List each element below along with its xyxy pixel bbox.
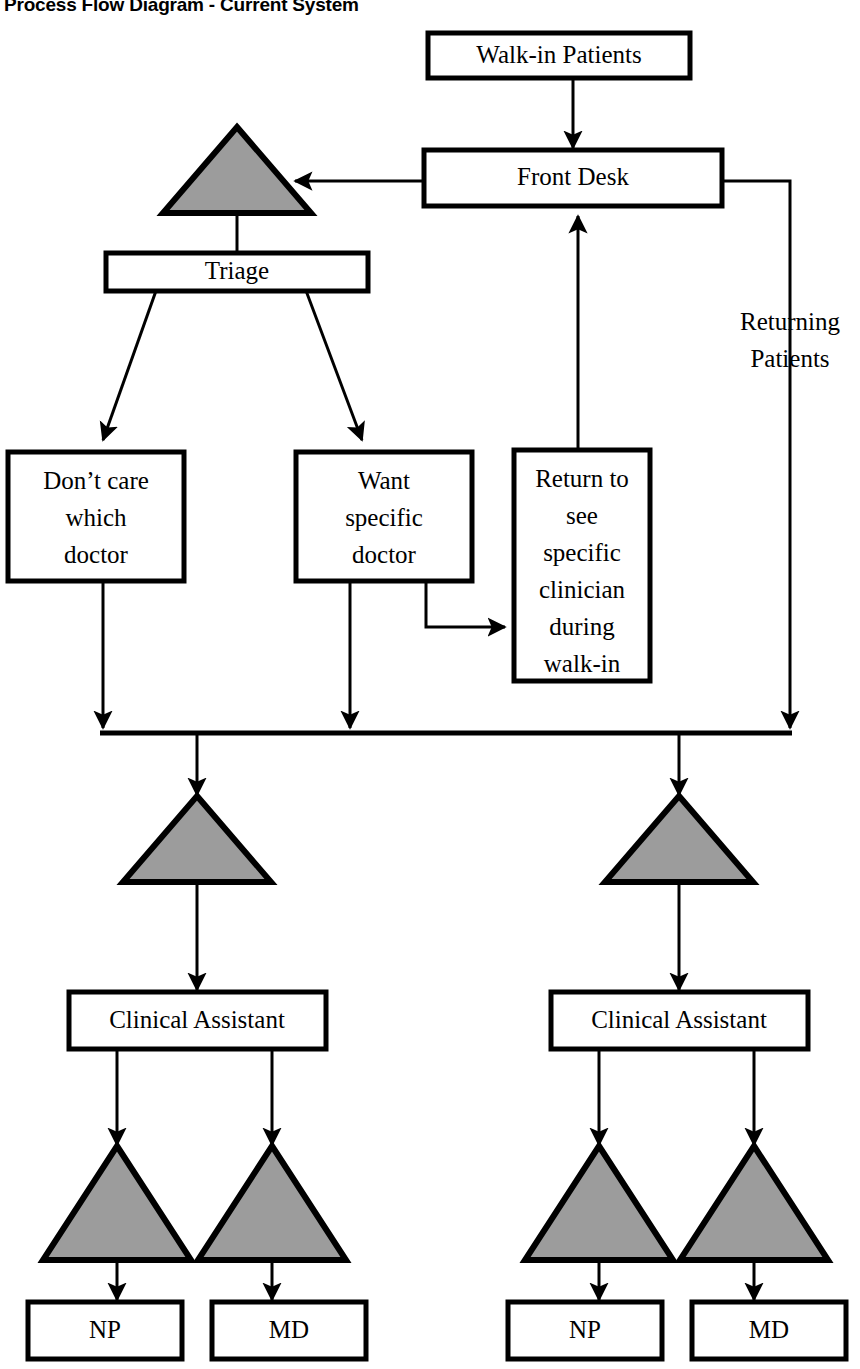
node-clinical-assistant-right-label: Clinical Assistant <box>591 1006 767 1033</box>
node-md-left-label: MD <box>269 1316 309 1343</box>
node-clinical-assistant-left-label: Clinical Assistant <box>109 1006 285 1033</box>
node-walk-in-patients[interactable]: Walk-in Patients <box>428 33 690 78</box>
node-md-right[interactable]: MD <box>692 1302 846 1359</box>
page-title: Process Flow Diagram - Current System <box>4 0 359 16</box>
node-md-right-label: MD <box>749 1316 789 1343</box>
returning-patients-line-1: Returning <box>740 308 840 335</box>
node-triage-label: Triage <box>205 257 269 284</box>
node-dont-care-line-1: Don’t care <box>43 467 149 494</box>
flow-wantspecific-to-returnspecific <box>426 580 505 627</box>
process-flow-diagram: Walk-in Patients Front Desk Triage Don’t… <box>0 0 860 1369</box>
node-clinical-assistant-right[interactable]: Clinical Assistant <box>551 992 808 1049</box>
node-want-specific-doctor[interactable]: Want specific doctor <box>296 452 472 581</box>
diagram-canvas: Process Flow Diagram - Current System <box>0 0 860 1369</box>
queue-triage-icon <box>163 127 311 213</box>
queue-md-right-icon <box>680 1146 828 1260</box>
queue-np-right-icon <box>525 1146 673 1260</box>
flow-triage-to-dontcare <box>103 288 157 440</box>
node-dont-care-line-3: doctor <box>64 541 129 568</box>
node-walk-in-patients-label: Walk-in Patients <box>476 41 641 68</box>
node-return-specific-line-1: Return to <box>535 465 629 492</box>
node-clinical-assistant-left[interactable]: Clinical Assistant <box>69 992 326 1049</box>
queue-md-left-icon <box>198 1146 346 1260</box>
node-triage[interactable]: Triage <box>106 253 368 291</box>
node-dont-care-which-doctor[interactable]: Don’t care which doctor <box>8 452 184 581</box>
node-return-specific-line-3: specific <box>543 539 621 566</box>
node-dont-care-line-2: which <box>65 504 127 531</box>
node-want-specific-line-3: doctor <box>352 541 417 568</box>
node-return-specific-line-2: see <box>566 502 598 529</box>
node-return-specific-line-6: walk-in <box>544 650 621 677</box>
node-return-see-specific-clinician[interactable]: Return to see specific clinician during … <box>514 450 650 681</box>
node-return-specific-line-5: during <box>549 613 615 640</box>
flow-frontdesk-returning-to-bus <box>722 181 790 728</box>
node-want-specific-line-2: specific <box>345 504 423 531</box>
node-return-specific-line-4: clinician <box>539 576 626 603</box>
flow-triage-to-wantspecific <box>305 288 362 440</box>
queue-np-left-icon <box>43 1146 191 1260</box>
node-np-left[interactable]: NP <box>28 1302 182 1359</box>
queue-left-icon <box>123 796 271 882</box>
node-want-specific-line-1: Want <box>358 467 410 494</box>
node-np-right-label: NP <box>569 1316 601 1343</box>
node-np-right[interactable]: NP <box>508 1302 662 1359</box>
node-front-desk-label: Front Desk <box>517 163 629 190</box>
returning-patients-line-2: Patients <box>750 345 829 372</box>
node-md-left[interactable]: MD <box>212 1302 366 1359</box>
node-front-desk[interactable]: Front Desk <box>424 150 722 206</box>
node-np-left-label: NP <box>89 1316 121 1343</box>
queue-right-icon <box>605 796 753 882</box>
